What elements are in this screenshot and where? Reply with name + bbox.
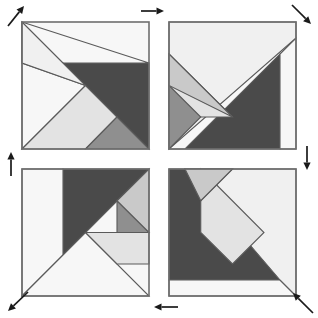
tangram-figure-root (0, 0, 318, 318)
square-top-right[interactable] (169, 22, 296, 149)
square-bottom-left[interactable] (22, 169, 149, 296)
square-top-right-right-strip-white[interactable] (280, 38, 296, 149)
square-bottom-right-bottom-strip-white[interactable] (169, 280, 296, 296)
square-top-left[interactable] (22, 22, 149, 149)
square-bottom-right[interactable] (169, 169, 296, 296)
tangram-figure-svg (0, 0, 318, 318)
